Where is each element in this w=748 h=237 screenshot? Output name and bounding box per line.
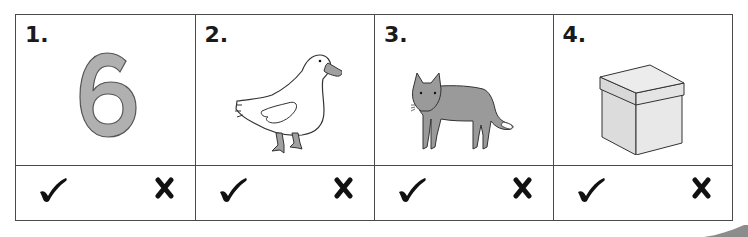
answer-area-4 bbox=[554, 164, 733, 220]
wolf-picture bbox=[407, 65, 519, 153]
picture-area-4: 4. bbox=[554, 15, 733, 166]
check-mark-icon[interactable] bbox=[218, 177, 248, 203]
cross-mark-icon[interactable] bbox=[691, 177, 712, 199]
cross-mark-icon[interactable] bbox=[154, 177, 175, 199]
item-number-2: 2. bbox=[205, 23, 229, 47]
item-number-1: 1. bbox=[25, 23, 49, 47]
picture-area-3: 3. bbox=[375, 15, 553, 166]
item-number-4: 4. bbox=[563, 23, 587, 47]
item-number-3: 3. bbox=[384, 23, 408, 47]
answer-area-2 bbox=[196, 164, 375, 220]
picture-area-1: 1. bbox=[16, 15, 195, 166]
cross-mark-icon[interactable] bbox=[512, 177, 533, 199]
digit-six-picture bbox=[76, 51, 140, 139]
item-cell-4: 4. bbox=[554, 15, 733, 220]
answer-area-3 bbox=[375, 164, 553, 220]
duck-picture bbox=[232, 49, 342, 155]
answer-grid: 1. 2. bbox=[15, 14, 733, 221]
check-mark-icon[interactable] bbox=[38, 177, 68, 203]
page-curl-icon bbox=[704, 225, 748, 237]
item-cell-1: 1. bbox=[16, 15, 196, 220]
check-mark-icon[interactable] bbox=[397, 177, 427, 203]
item-cell-2: 2. bbox=[196, 15, 376, 220]
item-cell-3: 3. bbox=[375, 15, 554, 220]
cross-mark-icon[interactable] bbox=[333, 177, 354, 199]
picture-area-2: 2. bbox=[196, 15, 375, 166]
box-picture bbox=[598, 59, 688, 155]
answer-area-1 bbox=[16, 164, 195, 220]
check-mark-icon[interactable] bbox=[576, 177, 606, 203]
